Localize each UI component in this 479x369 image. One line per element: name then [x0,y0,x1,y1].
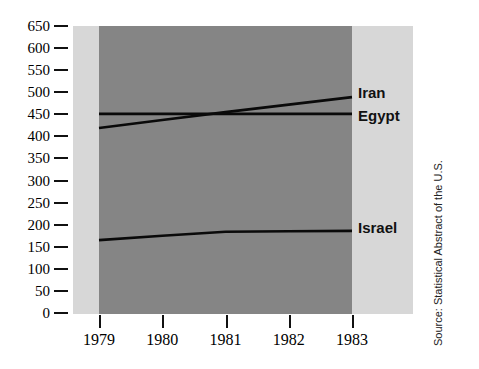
x-tick-mark-1979 [99,315,101,328]
y-tick-550: 550 [0,63,73,77]
y-tick-400: 400 [0,129,73,143]
y-tick-mark [54,113,68,115]
y-tick-label: 500 [28,85,55,99]
y-tick-mark [54,202,68,204]
y-tick-100: 100 [0,262,73,276]
y-tick-50: 50 [0,284,73,298]
x-tick-mark-1980 [162,315,164,328]
x-tick-label-1980: 1980 [146,331,178,349]
y-tick-500: 500 [0,85,73,99]
y-tick-350: 350 [0,151,73,165]
x-tick-mark-1983 [352,315,354,328]
x-tick-mark-1982 [289,315,291,328]
y-tick-200: 200 [0,218,73,232]
y-tick-150: 150 [0,240,73,254]
y-tick-mark [54,25,68,27]
y-tick-mark [54,246,68,248]
y-tick-mark [54,268,68,270]
y-tick-mark [54,157,68,159]
x-tick-label-1979: 1979 [83,331,115,349]
y-tick-label: 300 [28,174,55,188]
chart-figure: 650600550500450400350300250200150100500 … [0,0,479,369]
series-label-iran: Iran [358,84,386,101]
y-tick-mark [54,224,68,226]
x-tick-label-1982: 1982 [273,331,305,349]
y-tick-450: 450 [0,107,73,121]
x-tick-label-1983: 1983 [336,331,368,349]
y-tick-650: 650 [0,19,73,33]
y-tick-mark [54,290,68,292]
y-tick-250: 250 [0,196,73,210]
y-tick-label: 50 [35,284,54,298]
y-tick-600: 600 [0,41,73,55]
x-tick-mark-1981 [226,315,228,328]
y-tick-label: 650 [28,19,55,33]
y-tick-mark [54,69,68,71]
series-label-egypt: Egypt [358,107,400,124]
source-note: Source: Statistical Abstract of the U.S. [432,96,444,346]
plot-data-region-fill [99,26,352,314]
y-tick-label: 600 [28,41,55,55]
y-tick-mark [54,312,68,314]
y-tick-label: 100 [28,262,55,276]
x-tick-label-1981: 1981 [210,331,242,349]
y-tick-mark [54,180,68,182]
series-label-israel: Israel [358,219,397,236]
y-tick-label: 0 [43,306,55,320]
y-tick-label: 200 [28,218,55,232]
y-tick-label: 350 [28,151,55,165]
y-tick-0: 0 [0,306,73,320]
y-tick-300: 300 [0,174,73,188]
y-tick-label: 450 [28,107,55,121]
y-tick-label: 150 [28,240,55,254]
y-tick-mark [54,47,68,49]
y-tick-label: 550 [28,63,55,77]
y-tick-label: 400 [28,129,55,143]
y-tick-mark [54,91,68,93]
y-tick-label: 250 [28,196,55,210]
y-tick-mark [54,135,68,137]
